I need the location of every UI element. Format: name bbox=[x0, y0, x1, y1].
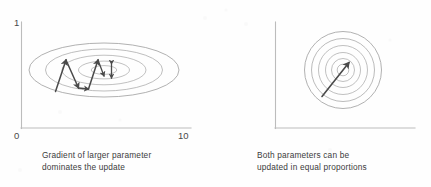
left-axis-y-max-label: 1 bbox=[14, 18, 19, 28]
contour-plot-elliptical bbox=[0, 0, 215, 145]
left-axis-origin-label: 0 bbox=[14, 131, 19, 141]
panel-unnormalized-parameters: 1 0 10 Gradient of larger parameter domi… bbox=[0, 0, 215, 187]
contour-ring-1 bbox=[29, 43, 179, 97]
right-panel-caption: Both parameters can be updated in equal … bbox=[257, 150, 367, 173]
axis-lines bbox=[21, 22, 191, 129]
figure-canvas: 1 0 10 Gradient of larger parameter domi… bbox=[0, 0, 431, 187]
zigzag-segment-1 bbox=[56, 60, 67, 92]
zigzag-descent-path bbox=[56, 60, 105, 92]
panel-normalized-parameters: 1 0 1 Both parameters can be updated in … bbox=[216, 0, 431, 187]
contour-plot-circular bbox=[216, 0, 431, 145]
left-panel-caption: Gradient of larger parameter dominates t… bbox=[42, 150, 151, 173]
zigzag-segment-2 bbox=[66, 60, 79, 88]
contour-rings bbox=[29, 43, 179, 97]
left-axis-x-max-label: 10 bbox=[178, 131, 189, 141]
zigzag-segment-5 bbox=[98, 60, 104, 76]
